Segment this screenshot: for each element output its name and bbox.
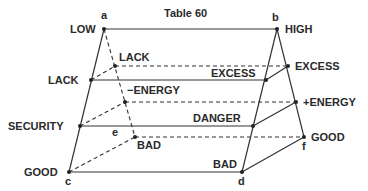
point-c-label: c bbox=[65, 175, 71, 187]
danger-dot bbox=[251, 124, 255, 128]
label-excess-front: EXCESS bbox=[211, 67, 256, 79]
label-security: SECURITY bbox=[8, 120, 64, 132]
label-good-front: GOOD bbox=[24, 166, 58, 178]
label-good-back: GOOD bbox=[311, 131, 345, 143]
point-b-label: b bbox=[272, 11, 279, 23]
security-energy-connector bbox=[80, 102, 125, 126]
minus-energy-dot bbox=[123, 100, 127, 104]
point-a-dot bbox=[102, 27, 106, 31]
back-left-edge-ae bbox=[104, 29, 135, 137]
excess-connector bbox=[266, 66, 288, 80]
label-excess-back: EXCESS bbox=[295, 60, 340, 72]
point-f-dot bbox=[302, 135, 306, 139]
prism-diagram: Table 60 a b c d e f LOW HIGH LACK LACK … bbox=[0, 0, 368, 191]
danger-energy-connector bbox=[253, 102, 296, 126]
label-minus-energy: −ENERGY bbox=[127, 84, 181, 96]
plus-energy-dot bbox=[294, 100, 298, 104]
label-bad-back: BAD bbox=[137, 139, 161, 151]
point-e-label: e bbox=[112, 126, 118, 138]
label-danger: DANGER bbox=[193, 112, 241, 124]
back-right-edge-bf bbox=[277, 29, 304, 137]
lack-back-dot bbox=[113, 64, 117, 68]
point-f-label: f bbox=[302, 140, 306, 152]
point-d-dot bbox=[240, 170, 244, 174]
point-c-dot bbox=[67, 170, 71, 174]
label-plus-energy: +ENERGY bbox=[303, 96, 357, 108]
point-b-dot bbox=[275, 27, 279, 31]
front-right-edge-bd bbox=[242, 29, 277, 172]
front-left-edge-ac bbox=[69, 29, 104, 172]
diagram-title: Table 60 bbox=[164, 7, 207, 19]
excess-front-dot bbox=[264, 78, 268, 82]
label-lack-back: LACK bbox=[119, 51, 150, 63]
point-a-label: a bbox=[101, 9, 108, 21]
security-dot bbox=[78, 124, 82, 128]
point-d-label: d bbox=[238, 175, 245, 187]
excess-back-dot bbox=[286, 64, 290, 68]
bottom-right-edge-df bbox=[242, 137, 304, 172]
label-low: LOW bbox=[70, 23, 96, 35]
bottom-left-edge-ce bbox=[69, 137, 135, 172]
label-high: HIGH bbox=[285, 23, 313, 35]
label-bad-front: BAD bbox=[213, 158, 237, 170]
lack-front-dot bbox=[89, 78, 93, 82]
label-lack-front: LACK bbox=[48, 74, 79, 86]
